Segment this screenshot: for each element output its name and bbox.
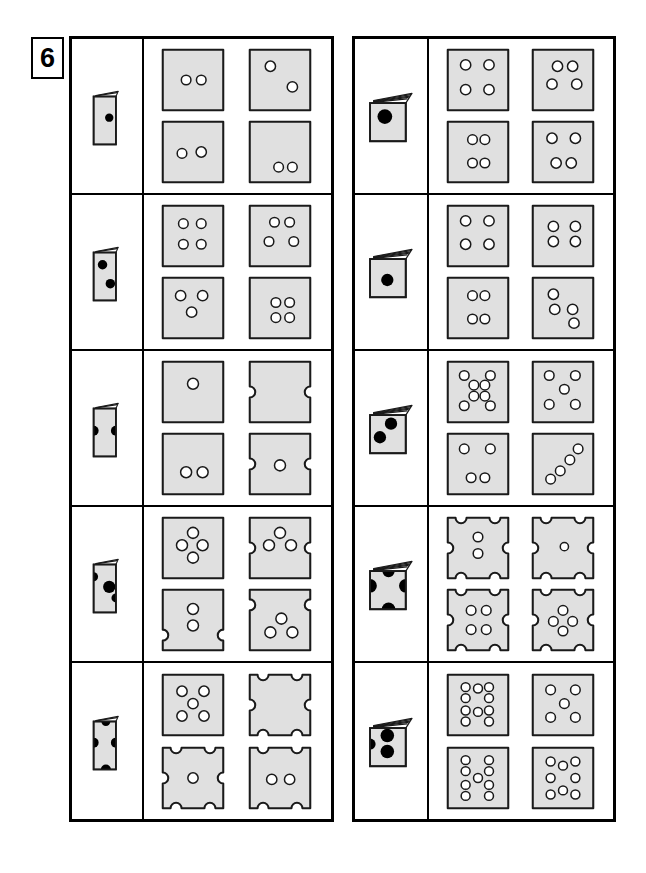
answer-option[interactable]: [160, 745, 226, 811]
answer-option[interactable]: [160, 203, 226, 269]
answer-option[interactable]: [530, 745, 596, 811]
answer-option[interactable]: [247, 515, 313, 581]
option-sheet[interactable]: [247, 275, 313, 341]
answer-option[interactable]: [247, 203, 313, 269]
option-sheet[interactable]: [530, 745, 596, 811]
option-sheet[interactable]: [247, 587, 313, 653]
answer-option[interactable]: [530, 431, 596, 497]
option-sheet[interactable]: [445, 47, 511, 113]
answer-option[interactable]: [530, 359, 596, 425]
option-sheet[interactable]: [247, 359, 313, 425]
punch-mark: [98, 260, 107, 269]
option-sheet[interactable]: [247, 431, 313, 497]
option-sheet[interactable]: [247, 203, 313, 269]
option-sheet[interactable]: [160, 587, 226, 653]
option-sheet[interactable]: [530, 359, 596, 425]
option-sheet[interactable]: [160, 515, 226, 581]
punched-hole: [573, 444, 583, 454]
sheet-outline: [250, 674, 311, 735]
option-sheet[interactable]: [160, 359, 226, 425]
answer-option[interactable]: [160, 672, 226, 738]
punched-hole: [484, 682, 493, 691]
option-sheet[interactable]: [445, 203, 511, 269]
fold-edge-flaps: [374, 93, 412, 103]
option-sheet[interactable]: [445, 275, 511, 341]
options-cell: [429, 507, 613, 661]
punched-hole: [176, 290, 186, 300]
option-sheet[interactable]: [445, 515, 511, 581]
option-sheet[interactable]: [530, 587, 596, 653]
folded-paper-key: [78, 230, 136, 314]
answer-option[interactable]: [247, 47, 313, 113]
option-sheet[interactable]: [530, 119, 596, 185]
answer-option[interactable]: [445, 431, 511, 497]
answer-option[interactable]: [530, 672, 596, 738]
answer-option[interactable]: [445, 587, 511, 653]
answer-option[interactable]: [530, 47, 596, 113]
option-sheet[interactable]: [530, 515, 596, 581]
answer-option[interactable]: [445, 672, 511, 738]
answer-option[interactable]: [530, 119, 596, 185]
punched-hole: [265, 627, 276, 638]
answer-option[interactable]: [445, 515, 511, 581]
answer-option[interactable]: [247, 745, 313, 811]
answer-option[interactable]: [530, 275, 596, 341]
answer-option[interactable]: [445, 359, 511, 425]
answer-option[interactable]: [160, 587, 226, 653]
answer-option[interactable]: [160, 515, 226, 581]
punched-hole: [571, 79, 581, 89]
punched-hole: [549, 304, 559, 314]
option-sheet[interactable]: [445, 587, 511, 653]
answer-option[interactable]: [247, 119, 313, 185]
option-sheet[interactable]: [247, 672, 313, 738]
punched-hole: [480, 314, 490, 324]
option-sheet[interactable]: [247, 745, 313, 811]
option-sheet[interactable]: [445, 359, 511, 425]
option-sheet[interactable]: [445, 119, 511, 185]
option-sheet[interactable]: [160, 672, 226, 738]
option-sheet[interactable]: [160, 47, 226, 113]
option-sheet[interactable]: [247, 119, 313, 185]
option-sheet[interactable]: [530, 672, 596, 738]
answer-option[interactable]: [247, 587, 313, 653]
option-sheet[interactable]: [160, 275, 226, 341]
punched-hole: [558, 626, 568, 636]
punched-hole: [287, 627, 298, 638]
option-sheet[interactable]: [445, 745, 511, 811]
punched-hole: [467, 291, 477, 301]
option-sheet[interactable]: [530, 47, 596, 113]
right-panel: [352, 36, 616, 822]
option-sheet[interactable]: [445, 672, 511, 738]
answer-option[interactable]: [247, 359, 313, 425]
answer-option[interactable]: [445, 745, 511, 811]
option-sheet[interactable]: [445, 431, 511, 497]
option-sheet[interactable]: [160, 431, 226, 497]
answer-option[interactable]: [160, 47, 226, 113]
punched-hole: [274, 162, 284, 172]
answer-option[interactable]: [247, 275, 313, 341]
punched-hole: [570, 400, 580, 410]
answer-option[interactable]: [247, 431, 313, 497]
answer-option[interactable]: [445, 203, 511, 269]
answer-option[interactable]: [530, 587, 596, 653]
answer-option[interactable]: [160, 275, 226, 341]
answer-option[interactable]: [160, 119, 226, 185]
answer-option[interactable]: [530, 203, 596, 269]
option-sheet[interactable]: [530, 275, 596, 341]
option-sheet[interactable]: [160, 203, 226, 269]
answer-option[interactable]: [445, 275, 511, 341]
option-sheet[interactable]: [530, 203, 596, 269]
option-sheet[interactable]: [530, 431, 596, 497]
answer-option[interactable]: [160, 431, 226, 497]
answer-option[interactable]: [445, 119, 511, 185]
punched-hole: [570, 236, 580, 246]
answer-option[interactable]: [445, 47, 511, 113]
answer-option[interactable]: [160, 359, 226, 425]
answer-option[interactable]: [247, 672, 313, 738]
option-sheet[interactable]: [160, 119, 226, 185]
answer-option[interactable]: [530, 515, 596, 581]
option-sheet[interactable]: [247, 47, 313, 113]
option-sheet[interactable]: [160, 745, 226, 811]
option-sheet[interactable]: [247, 515, 313, 581]
punched-hole: [188, 772, 198, 782]
